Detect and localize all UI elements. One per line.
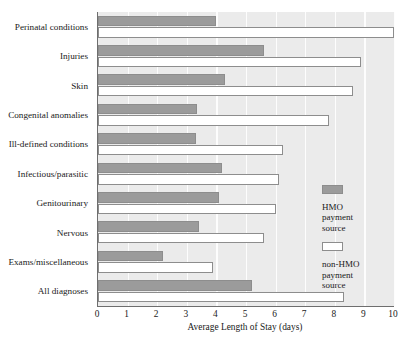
legend-label-line: source bbox=[322, 280, 402, 290]
legend-label-line: payment bbox=[322, 270, 402, 280]
bar-chart: Perinatal conditionsInjuriesSkinCongenit… bbox=[0, 0, 405, 345]
category-label: Ill-defined conditions bbox=[9, 139, 88, 149]
legend-label-line: payment bbox=[322, 212, 402, 222]
legend-label: non-HMOpaymentsource bbox=[322, 259, 402, 290]
bar-hmo bbox=[98, 192, 219, 203]
legend-label-line: non-HMO bbox=[322, 259, 402, 269]
category-label: Infectious/parasitic bbox=[18, 169, 88, 179]
bar-non-hmo bbox=[98, 145, 283, 156]
category-label: Skin bbox=[71, 81, 88, 91]
bar-hmo bbox=[98, 133, 196, 144]
x-axis-title: Average Length of Stay (days) bbox=[97, 322, 393, 332]
legend-entry: non-HMOpaymentsource bbox=[322, 241, 402, 290]
bar-group bbox=[98, 71, 394, 100]
legend-swatch-hmo bbox=[322, 185, 343, 194]
x-tick-label: 0 bbox=[95, 308, 100, 320]
bar-non-hmo bbox=[98, 57, 361, 68]
legend-entry: HMOpaymentsource bbox=[322, 184, 402, 233]
x-tick-label: 6 bbox=[272, 308, 277, 320]
x-tick-label: 3 bbox=[183, 308, 188, 320]
bar-hmo bbox=[98, 74, 225, 85]
legend-label-line: HMO bbox=[322, 202, 402, 212]
bar-non-hmo bbox=[98, 27, 394, 38]
bar-non-hmo bbox=[98, 233, 264, 244]
bar-group bbox=[98, 130, 394, 159]
bar-hmo bbox=[98, 221, 199, 232]
category-label: Exams/miscellaneous bbox=[8, 257, 88, 267]
x-tick-label: 7 bbox=[302, 308, 307, 320]
bar-hmo bbox=[98, 104, 197, 115]
bar-hmo bbox=[98, 280, 252, 291]
bar-non-hmo bbox=[98, 115, 329, 126]
category-label: Genitourinary bbox=[36, 198, 88, 208]
bar-group bbox=[98, 12, 394, 41]
bar-non-hmo bbox=[98, 204, 276, 215]
category-label: All diagnoses bbox=[38, 286, 88, 296]
category-label: Perinatal conditions bbox=[15, 22, 88, 32]
x-tick-label: 9 bbox=[361, 308, 366, 320]
bar-hmo bbox=[98, 45, 264, 56]
x-tick-label: 5 bbox=[243, 308, 248, 320]
legend-label-line: source bbox=[322, 223, 402, 233]
bar-group bbox=[98, 100, 394, 129]
bar-hmo bbox=[98, 251, 163, 262]
bar-non-hmo bbox=[98, 292, 344, 303]
x-tick-label: 10 bbox=[388, 308, 397, 320]
legend-label: HMOpaymentsource bbox=[322, 202, 402, 233]
category-label: Injuries bbox=[60, 51, 88, 61]
category-axis: Perinatal conditionsInjuriesSkinCongenit… bbox=[0, 12, 92, 306]
chart-legend: HMOpaymentsourcenon-HMOpaymentsource bbox=[322, 184, 402, 298]
x-tick-label: 8 bbox=[331, 308, 336, 320]
bar-hmo bbox=[98, 16, 216, 27]
bar-group bbox=[98, 41, 394, 70]
category-label: Congenital anomalies bbox=[8, 110, 88, 120]
category-label: Nervous bbox=[57, 228, 88, 238]
bar-hmo bbox=[98, 163, 222, 174]
bar-non-hmo bbox=[98, 174, 279, 185]
x-tick-label: 2 bbox=[154, 308, 159, 320]
x-tick-label: 1 bbox=[124, 308, 129, 320]
bar-non-hmo bbox=[98, 86, 353, 97]
x-tick-label: 4 bbox=[213, 308, 218, 320]
bar-non-hmo bbox=[98, 262, 213, 273]
legend-swatch-nonhmo bbox=[322, 242, 343, 251]
